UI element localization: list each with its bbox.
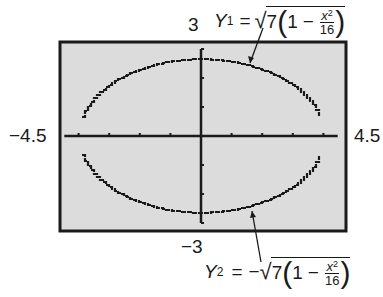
y1-close-paren: ) xyxy=(335,8,345,36)
ymin-label: −3 xyxy=(181,237,203,257)
ymax-label: 3 xyxy=(188,15,199,35)
y1-one: 1 xyxy=(287,11,298,33)
xmin-label: −4.5 xyxy=(9,126,47,146)
y2-minus: − xyxy=(308,262,319,284)
y1-minus: − xyxy=(303,11,314,33)
y1-open-paren: ( xyxy=(277,8,287,36)
y1-name: Y xyxy=(214,10,227,32)
xmax-label: 4.5 xyxy=(354,126,380,146)
y2-num-exp: 2 xyxy=(333,259,338,269)
y2-name: Y xyxy=(204,261,217,283)
y1-subscript: 1 xyxy=(227,14,234,28)
y2-close-paren: ) xyxy=(340,259,350,287)
y2-coef: 7 xyxy=(272,262,283,284)
y2-fraction: x2 16 xyxy=(325,258,339,287)
y2-equation: Y2 = − √ 7 ( 1 − x2 16 ) xyxy=(204,255,350,289)
y1-equals: = xyxy=(239,10,250,32)
y1-denominator: 16 xyxy=(320,23,334,36)
y2-subscript: 2 xyxy=(217,265,224,279)
y1-equation: Y1 = √ 7 ( 1 − x2 16 ) xyxy=(214,4,345,38)
y1-coef: 7 xyxy=(267,11,278,33)
y2-denominator: 16 xyxy=(325,274,339,287)
y1-num-exp: 2 xyxy=(328,8,333,18)
y2-equals: = xyxy=(231,261,242,283)
calculator-graph-figure: 3 −3 −4.5 4.5 Y1 = √ 7 ( 1 − x2 16 ) Y2 … xyxy=(0,0,383,297)
y1-radicand: 7 ( 1 − x2 16 ) xyxy=(266,6,346,36)
y2-sign: − xyxy=(248,261,259,283)
y1-fraction: x2 16 xyxy=(320,7,334,36)
y2-one: 1 xyxy=(292,262,303,284)
y2-open-paren: ( xyxy=(282,259,292,287)
y2-radicand: 7 ( 1 − x2 16 ) xyxy=(271,257,351,287)
